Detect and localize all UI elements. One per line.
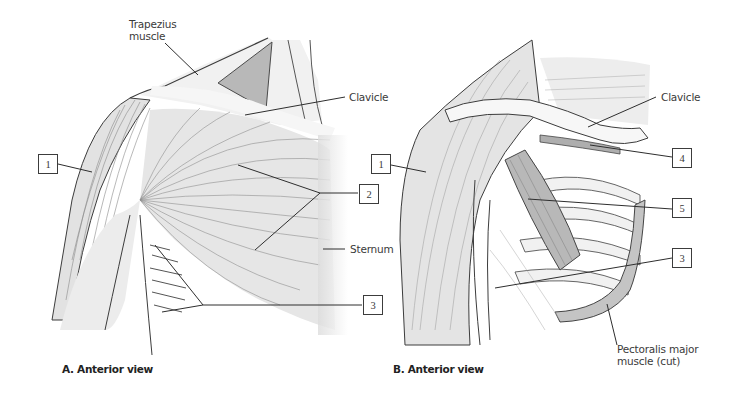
panel-a-drawing — [52, 37, 348, 355]
label-sternum: Sternum — [350, 244, 394, 255]
caption-panel-a: A. Anterior view — [62, 363, 153, 375]
callout-box-a-3: 3 — [363, 295, 383, 315]
callout-box-b-4: 4 — [672, 148, 692, 168]
callout-box-a-1: 1 — [38, 154, 58, 174]
panel-b-drawing — [400, 40, 650, 345]
label-trapezius-line1: Trapezius — [129, 19, 177, 30]
label-pectoralis-line2: muscle (cut) — [617, 356, 680, 367]
callout-box-b-5: 5 — [672, 198, 692, 218]
callout-box-b-3: 3 — [672, 248, 692, 268]
anatomy-figure: Trapezius muscle Clavicle Sternum 1 2 3 … — [0, 0, 741, 401]
callout-box-b-1: 1 — [371, 154, 391, 174]
caption-panel-b: B. Anterior view — [393, 363, 484, 375]
label-trapezius-line2: muscle — [129, 31, 165, 42]
label-clavicle-b: Clavicle — [661, 92, 700, 103]
callout-box-a-2: 2 — [359, 184, 379, 204]
label-pectoralis-line1: Pectoralis major — [617, 344, 698, 355]
label-clavicle-a: Clavicle — [349, 92, 388, 103]
